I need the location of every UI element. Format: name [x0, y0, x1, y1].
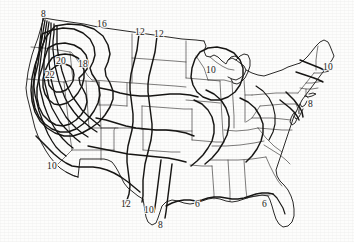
state-boundaries [27, 34, 330, 201]
contour-label-12-north-a: 12 [135, 28, 145, 38]
contour-10-texas [154, 160, 161, 212]
contour-label-10-northeast: 10 [323, 63, 333, 73]
contour-label-10-midwest: 10 [206, 66, 216, 76]
contour-6-florida [273, 194, 285, 214]
contour-label-18-northwest: 18 [78, 60, 88, 70]
contour-8-texas [165, 164, 172, 218]
contour-mid-central-a [100, 88, 198, 97]
contour-mid-central-e [205, 90, 229, 164]
contour-label-12-south: 12 [121, 200, 131, 210]
contour-label-10-southwest: 10 [47, 162, 57, 172]
contour-mid-central-b [96, 118, 194, 136]
contour-label-22-northwest: 22 [45, 71, 55, 81]
contour-lines [31, 18, 328, 218]
contour-label-6-gulf: 6 [195, 200, 200, 210]
contour-label-12-north-b: 12 [154, 30, 164, 40]
contour-label-8-midatlantic: 8 [308, 100, 313, 110]
contour-12-plains-west [124, 34, 139, 205]
contour-label-6-florida: 6 [262, 200, 267, 210]
contour-mid-central-c [88, 146, 186, 162]
contour-6-gulf [166, 193, 273, 206]
map-svg [0, 0, 354, 242]
contour-label-16-north: 16 [97, 20, 107, 30]
contour-label-8-northwest: 8 [41, 10, 46, 20]
contour-mid-central-d [191, 100, 214, 166]
contour-label-10-south: 10 [144, 206, 154, 216]
contour-map: 8 16 12 12 20 18 22 10 10 8 10 12 10 8 6… [0, 0, 354, 242]
contour-label-8-south: 8 [158, 221, 163, 231]
contour-12-plains-east [142, 36, 157, 202]
contour-10-midwest [191, 47, 243, 100]
contour-label-20-northwest: 20 [56, 57, 66, 67]
